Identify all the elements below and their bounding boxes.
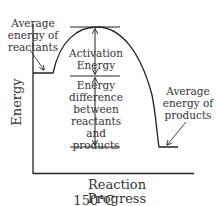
reactants-label: Average energy of reactants: [4, 17, 62, 53]
products-label-line: products: [160, 109, 216, 121]
reactants-label-line: Average: [4, 17, 62, 29]
difference-label-line: difference: [64, 91, 128, 103]
products-pointer-arrow: [167, 122, 186, 145]
difference-label-line: between: [64, 103, 128, 115]
temperature-label: 150°C: [72, 194, 116, 206]
reactants-label-line: energy of: [4, 29, 62, 41]
activation-label-line: Activation: [65, 47, 127, 59]
difference-label-line: products: [64, 139, 128, 151]
products-label: Average energy of products: [160, 85, 216, 121]
products-label-line: energy of: [160, 97, 216, 109]
energy-difference-label: Energy difference between reactants and …: [64, 79, 128, 151]
y-axis-label: Energy: [11, 77, 23, 127]
reactants-pointer-arrow: [30, 50, 44, 70]
activation-label-line: Energy: [65, 59, 127, 71]
activation-energy-label: Activation Energy: [65, 47, 127, 71]
products-label-line: Average: [160, 85, 216, 97]
difference-label-line: reactants and: [64, 115, 128, 139]
difference-label-line: Energy: [64, 79, 128, 91]
reactants-label-line: reactants: [4, 41, 62, 53]
